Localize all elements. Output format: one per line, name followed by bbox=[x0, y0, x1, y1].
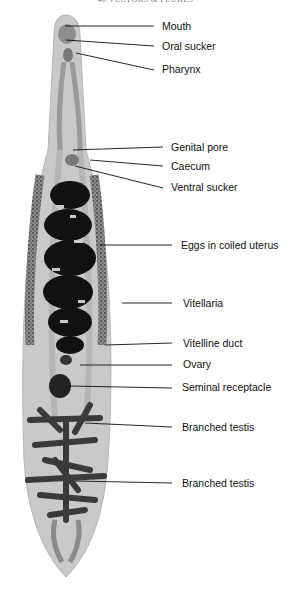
oral-sucker-shape bbox=[58, 24, 76, 44]
label-ovary: Ovary bbox=[183, 358, 211, 370]
label-caecum: Caecum bbox=[171, 160, 210, 172]
label-seminal-receptacle: Seminal receptacle bbox=[182, 381, 271, 393]
label-genital-pore: Genital pore bbox=[171, 141, 228, 153]
seminal-receptacle-shape bbox=[49, 374, 71, 398]
label-eggs-in-coiled-uterus: Eggs in coiled uterus bbox=[181, 239, 278, 251]
label-pharynx: Pharynx bbox=[162, 63, 201, 75]
ovary-shape bbox=[60, 355, 72, 365]
pharynx-shape bbox=[63, 48, 73, 62]
label-branched-testis-1: Branched testis bbox=[182, 421, 254, 433]
label-ventral-sucker: Ventral sucker bbox=[171, 181, 238, 193]
label-oral-sucker: Oral sucker bbox=[162, 40, 216, 52]
label-vitelline-duct: Vitelline duct bbox=[183, 337, 242, 349]
label-vitellaria: Vitellaria bbox=[183, 297, 223, 309]
label-mouth: Mouth bbox=[162, 20, 191, 32]
label-branched-testis-2: Branched testis bbox=[182, 477, 254, 489]
fluke-illustration bbox=[0, 0, 291, 589]
